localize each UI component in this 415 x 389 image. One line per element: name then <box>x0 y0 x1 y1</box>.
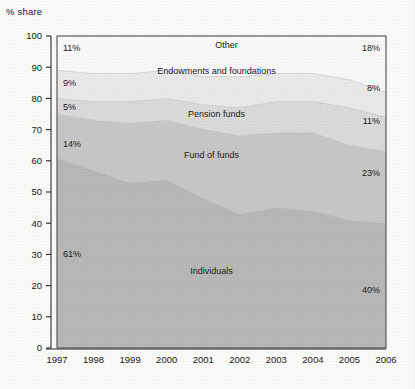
y-tick-label: 80 <box>31 93 42 104</box>
value-label-pension-1997: 5% <box>63 102 76 112</box>
series-label-individuals: Individuals <box>190 266 233 276</box>
value-label-other-2006: 18% <box>362 43 380 53</box>
series-label-fund-of-funds: Fund of funds <box>184 150 240 160</box>
y-tick-label: 0 <box>37 342 42 353</box>
x-axis: 1997199819992000200120022003200420052006 <box>46 349 397 365</box>
x-tick-label: 2004 <box>302 354 323 365</box>
value-label-fund-of-funds-1997: 14% <box>63 139 81 149</box>
stacked-area-chart: 0102030405060708090100 19971998199920002… <box>0 0 415 389</box>
series-label-pension: Pension funds <box>188 109 246 119</box>
x-tick-label: 1998 <box>83 354 104 365</box>
x-tick-label: 1999 <box>120 354 141 365</box>
x-tick-label: 1997 <box>46 354 67 365</box>
y-tick-label: 10 <box>31 311 42 322</box>
x-tick-label: 2005 <box>339 354 360 365</box>
y-tick-label: 50 <box>31 186 42 197</box>
y-tick-label: 20 <box>31 280 42 291</box>
x-tick-label: 2003 <box>266 354 287 365</box>
value-label-pension-2006: 11% <box>363 116 380 126</box>
value-label-individuals-1997: 61% <box>63 249 81 259</box>
y-tick-label: 30 <box>31 249 42 260</box>
y-tick-label: 60 <box>31 155 42 166</box>
value-label-endowments-2006: 8% <box>367 83 380 93</box>
y-tick-label: 40 <box>31 218 42 229</box>
value-label-fund-of-funds-2006: 23% <box>362 168 380 178</box>
series-label-endowments: Endowments and foundations <box>157 66 276 76</box>
y-axis: 0102030405060708090100 <box>26 30 51 353</box>
x-tick-label: 2006 <box>375 354 396 365</box>
chart-container: % share 0102030405060708090100 199719981… <box>0 0 415 389</box>
y-tick-label: 90 <box>31 62 42 73</box>
x-tick-label: 2001 <box>193 354 214 365</box>
value-label-individuals-2006: 40% <box>362 285 380 295</box>
x-tick-label: 2000 <box>156 354 177 365</box>
area-series-group <box>57 36 386 348</box>
series-label-other: Other <box>215 40 238 50</box>
x-tick-label: 2002 <box>229 354 250 365</box>
value-label-endowments-1997: 9% <box>63 78 76 88</box>
y-tick-label: 100 <box>26 30 42 41</box>
value-label-other-1997: 11% <box>63 43 80 53</box>
y-tick-label: 70 <box>31 124 42 135</box>
